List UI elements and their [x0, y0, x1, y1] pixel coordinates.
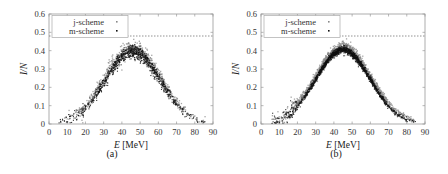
x-tick-label: 0: [259, 127, 263, 137]
legend-marker-icon: [328, 30, 330, 32]
y-tick-label: 0.6: [34, 9, 45, 19]
x-tick-label: 50: [348, 127, 357, 137]
legend: j-schemem-scheme: [52, 16, 128, 38]
x-tick-label: 10: [63, 127, 72, 137]
x-tick-label: 60: [366, 127, 375, 137]
x-tick-label: 90: [209, 127, 218, 137]
y-tick-label: 0: [253, 119, 257, 129]
y-tick-label: 0.3: [246, 64, 257, 74]
y-tick-label: 0.5: [34, 27, 45, 37]
x-tick-label: 70: [172, 127, 181, 137]
x-tick-label: 40: [330, 127, 339, 137]
panel-a: 010203040506070809000.10.20.30.40.50.6j-…: [0, 0, 224, 174]
y-tick-label: 0.6: [246, 9, 257, 19]
x-tick-label: 30: [99, 127, 108, 137]
x-tick-label: 20: [81, 127, 90, 137]
x-tick-label: 80: [403, 127, 412, 137]
y-tick-label: 0.5: [246, 27, 257, 37]
y-tick-label: 0.2: [246, 82, 257, 92]
panel-b: 010203040506070809000.10.20.30.40.50.6j-…: [224, 0, 448, 174]
x-tick-label: 60: [154, 127, 163, 137]
y-tick-label: 0.4: [246, 46, 257, 56]
x-tick-label: 80: [191, 127, 200, 137]
caption-b: (b): [224, 148, 448, 159]
x-tick-label: 50: [136, 127, 145, 137]
x-tick-label: 40: [118, 127, 127, 137]
y-axis-title: I/N: [231, 62, 241, 76]
y-tick-label: 0.1: [34, 101, 45, 111]
legend-marker-icon: [116, 30, 118, 32]
y-tick-label: 0.1: [246, 101, 257, 111]
legend-entry-label: m-scheme: [281, 26, 316, 36]
caption-a: (a): [0, 148, 224, 159]
y-tick-label: 0.3: [34, 64, 45, 74]
y-tick-label: 0.2: [34, 82, 45, 92]
legend-entry-label: m-scheme: [69, 26, 104, 36]
x-tick-label: 10: [275, 127, 284, 137]
x-tick-label: 20: [293, 127, 302, 137]
x-tick-label: 90: [421, 127, 430, 137]
y-tick-label: 0.4: [34, 46, 45, 56]
x-tick-label: 30: [311, 127, 320, 137]
x-tick-label: 70: [384, 127, 393, 137]
series-m-scheme: [272, 45, 416, 124]
legend: j-schemem-scheme: [264, 16, 340, 38]
legend-marker-icon: [328, 21, 330, 23]
legend-marker-icon: [116, 21, 118, 23]
y-axis-title: I/N: [19, 62, 29, 76]
x-tick-label: 0: [47, 127, 51, 137]
y-tick-label: 0: [41, 119, 45, 129]
